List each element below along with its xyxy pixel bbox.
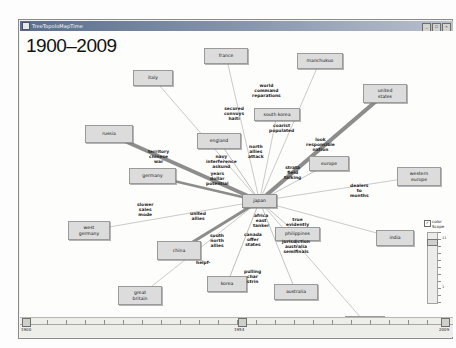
window-titlebar[interactable]: TreeTopoloMapTime _ □ × — [20, 21, 453, 31]
scope-header: ✓ color Scope — [424, 220, 450, 229]
edge-label-navy-interference-askund: navy interference askund — [206, 154, 237, 170]
timeline-tick — [218, 320, 219, 325]
timeline-tick — [275, 320, 276, 325]
app-icon — [22, 22, 30, 30]
timeline-tick — [123, 320, 124, 325]
node-west-germany[interactable]: west germany — [68, 221, 110, 240]
node-france[interactable]: france — [204, 48, 248, 64]
edge-label-look-responsible-nation: look responsible nation — [306, 137, 335, 153]
timeline-current-label: 1954 — [234, 327, 244, 332]
edge-label-south-north-allies: south north allies — [210, 233, 224, 249]
node-label: europe — [321, 161, 337, 166]
timeline-current-handle[interactable] — [238, 318, 247, 327]
node-label: united states — [378, 88, 393, 99]
scope-tick — [438, 288, 441, 289]
timeline-tick — [66, 320, 67, 325]
timeline-tick — [199, 320, 200, 325]
edge-label-helpf: helpf- — [196, 260, 210, 265]
node-italy[interactable]: italy — [133, 70, 173, 86]
node-england[interactable]: england — [197, 133, 241, 149]
timeline-tick — [408, 320, 409, 325]
edge-label-jurisdiction-australia: jurisdiction australia semifinals — [282, 239, 310, 255]
node-india[interactable]: india — [376, 230, 414, 246]
timeline-start-label: 1900 — [21, 327, 31, 332]
edge-japan-to-france — [226, 56, 260, 201]
scope-tick — [438, 239, 441, 240]
window-title: TreeTopoloMapTime — [32, 23, 83, 29]
timeline-axis[interactable]: 1900 1954 2009 — [20, 317, 453, 337]
timeline-end-label: 2009 — [439, 327, 449, 332]
node-united-states[interactable]: united states — [363, 84, 407, 103]
scope-tick-label: 11 — [442, 236, 447, 240]
timeline-tick — [351, 320, 352, 325]
edge-label-pulling-char-string: pulling char strin — [244, 269, 261, 285]
node-label: australia — [286, 289, 306, 294]
timeline-tick — [104, 320, 105, 325]
node-label: western europe — [410, 171, 428, 182]
edge-label-years-dollar-potential: years dollar potential — [206, 171, 228, 187]
timeline-start-handle[interactable] — [22, 318, 31, 327]
node-australia[interactable]: australia — [274, 284, 318, 300]
timeline-tick — [313, 320, 314, 325]
scope-checkbox[interactable]: ✓ — [424, 220, 431, 227]
scope-tick — [438, 267, 441, 268]
edge-label-canada-offer-states: canada offer states — [244, 232, 262, 248]
node-great-britain[interactable]: great britain — [118, 286, 162, 305]
timeline-tick — [180, 320, 181, 325]
year-range-label: 1900–2009 — [26, 35, 117, 57]
edge-label-secured-convoys-haiti: secured convoys haiti — [224, 106, 244, 122]
node-germany[interactable]: germany — [129, 168, 176, 184]
scope-panel: ✓ color Scope 111 — [424, 220, 450, 305]
edge-japan-to-canada — [260, 201, 366, 319]
node-label: philippines — [285, 231, 310, 236]
timeline-tick — [142, 320, 143, 325]
timeline-tick — [47, 320, 48, 325]
node-label: china — [173, 248, 185, 253]
node-japan[interactable]: japan — [242, 194, 277, 208]
edge-label-slower-sales-mode: slower sales mode — [137, 202, 153, 218]
edge-label-strata-field-talking: strata field talking — [284, 165, 301, 181]
timeline-tick — [370, 320, 371, 325]
node-manchukuo[interactable]: manchukuo — [297, 53, 343, 69]
node-label: england — [210, 138, 229, 143]
node-label: great britain — [133, 290, 148, 301]
node-label: france — [219, 53, 234, 58]
node-label: south korea — [263, 112, 290, 117]
edge-label-world-command-reparations: world command reparations — [252, 83, 281, 99]
node-russia[interactable]: russia — [85, 125, 133, 143]
graph-canvas[interactable]: 1900–2009 francemanchukuoitalyunited sta… — [20, 31, 453, 319]
scope-tick — [438, 274, 441, 275]
scope-tick — [438, 246, 441, 247]
node-label: korea — [221, 281, 234, 286]
node-label: italy — [148, 75, 158, 80]
scope-tick — [438, 302, 441, 303]
timeline-end-handle[interactable] — [441, 318, 450, 327]
node-china[interactable]: china — [157, 241, 201, 260]
scope-tick-label: 1 — [442, 285, 444, 289]
scope-slider-ticks: 111 — [438, 232, 449, 302]
node-western-europe[interactable]: western europe — [397, 167, 441, 186]
node-europe[interactable]: europe — [309, 156, 349, 171]
timeline-tick — [85, 320, 86, 325]
edge-label-coarist-populated: coarist populated — [269, 123, 294, 133]
node-south-korea[interactable]: south korea — [254, 108, 300, 121]
node-label: russia — [102, 131, 116, 136]
timeline-tick — [332, 320, 333, 325]
timeline-tick — [427, 320, 428, 325]
node-label: germany — [142, 173, 162, 178]
scope-tick — [438, 295, 441, 296]
scope-tick — [438, 253, 441, 254]
edge-label-africa-east-tanker: africa east tanker — [253, 213, 269, 229]
node-label: west germany — [79, 225, 99, 236]
edge-label-true-evidently: true evidently — [286, 217, 309, 227]
edge-label-dealers-to-months: dealers to months — [350, 183, 369, 199]
scope-tick — [438, 260, 441, 261]
scope-tick — [438, 232, 441, 233]
scope-slider[interactable] — [427, 232, 438, 304]
node-label: japan — [253, 198, 266, 203]
node-korea[interactable]: korea — [207, 276, 247, 292]
scope-slider-thumb[interactable] — [427, 239, 438, 246]
timeline-tick — [256, 320, 257, 325]
scope-label: color Scope — [432, 220, 450, 229]
edge-label-north-allies-attack: north allies attack — [248, 144, 264, 160]
